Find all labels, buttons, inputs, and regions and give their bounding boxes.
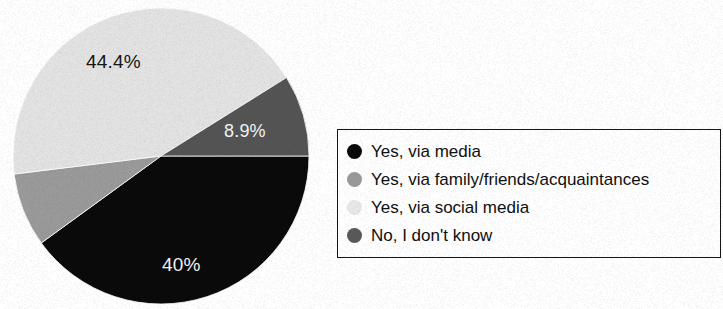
legend-item-via-media: Yes, via media <box>347 137 720 165</box>
legend-swatch-icon <box>347 172 362 187</box>
legend-item-label: No, I don't know <box>371 227 492 244</box>
legend-item-via-family-friends: Yes, via family/friends/acquaintances <box>347 165 720 193</box>
legend-swatch-icon <box>347 200 362 215</box>
legend-swatch-icon <box>347 228 362 243</box>
chart-legend: Yes, via media Yes, via family/friends/a… <box>337 129 721 258</box>
slice-label-via-media: 40% <box>162 255 201 274</box>
legend-item-via-social-media: Yes, via social media <box>347 193 720 221</box>
legend-item-no-dont-know: No, I don't know <box>347 221 720 249</box>
pie-chart-figure: 44.4% 8.9% 40% Yes, via media Yes, via f… <box>0 0 723 309</box>
legend-item-label: Yes, via social media <box>371 199 529 216</box>
legend-swatch-icon <box>347 144 362 159</box>
legend-item-label: Yes, via media <box>371 143 481 160</box>
legend-item-label: Yes, via family/friends/acquaintances <box>371 171 649 188</box>
pie-slices-svg <box>12 7 310 305</box>
pie-chart: 44.4% 8.9% 40% <box>12 7 310 305</box>
slice-label-social-media: 44.4% <box>86 52 141 71</box>
slice-label-no-dont-know: 8.9% <box>224 122 266 140</box>
